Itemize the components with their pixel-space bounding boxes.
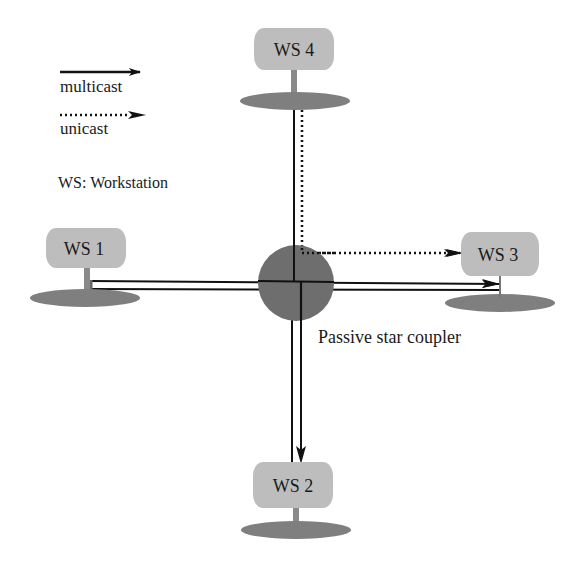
ws1-label: WS 1 (64, 239, 105, 259)
unicast-legend-arrow-icon (60, 111, 146, 119)
workstation-ws3: WS 3 (444, 232, 555, 312)
ws4-label: WS 4 (274, 40, 315, 60)
ws3-label: WS 3 (478, 245, 519, 265)
legend: multicast unicast WS: Workstation (58, 72, 168, 191)
workstation-ws1: WS 1 (30, 228, 140, 307)
ws-definition-label: WS: Workstation (58, 174, 168, 191)
ws2-label: WS 2 (273, 476, 314, 496)
ws1-base-icon (30, 289, 140, 307)
star-network-diagram: multicast unicast WS: Workstation Passiv… (0, 0, 579, 565)
unicast-link-ws4-ws3 (302, 100, 460, 253)
ws2-base-icon (241, 521, 351, 539)
star-coupler-circle (258, 245, 334, 321)
workstation-ws4: WS 4 (240, 28, 350, 110)
star-coupler-label: Passive star coupler (318, 327, 461, 347)
ws4-base-icon (240, 92, 350, 110)
unicast-legend-label: unicast (60, 119, 108, 138)
passive-star-coupler (258, 245, 334, 321)
multicast-legend-label: multicast (60, 77, 123, 96)
workstation-ws2: WS 2 (241, 462, 351, 539)
